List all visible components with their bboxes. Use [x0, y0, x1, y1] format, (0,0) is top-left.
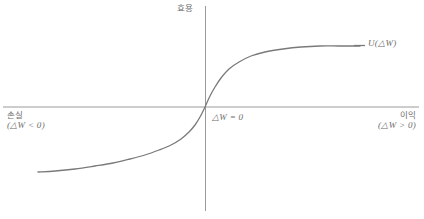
y-axis-title: 효용 [177, 3, 193, 13]
utility-curve-plot [0, 0, 424, 219]
x-axis-left-label: 손실 (△W < 0) [7, 110, 45, 131]
origin-label-text: △W = 0 [212, 112, 243, 123]
y-axis-title-text: 효용 [177, 3, 193, 13]
x-axis-right-label: 이익 (△W > 0) [378, 110, 416, 131]
loss-condition-text: (△W < 0) [7, 120, 45, 131]
gain-condition-text: (△W > 0) [378, 120, 416, 131]
loss-label-text: 손실 [7, 110, 45, 120]
origin-label: △W = 0 [212, 112, 243, 123]
chart-canvas: 효용 손실 (△W < 0) △W = 0 이익 (△W > 0) U(△W) [0, 0, 424, 219]
gain-label-text: 이익 [378, 110, 416, 120]
series-label-text: U(△W) [368, 38, 397, 49]
utility-curve [38, 46, 360, 172]
series-label: U(△W) [368, 38, 397, 49]
